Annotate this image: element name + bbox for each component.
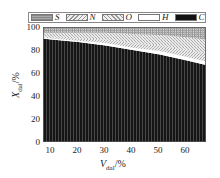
y-tick-80: 80 [20, 46, 40, 55]
legend-label-n: N [90, 13, 96, 22]
plot-area [43, 27, 206, 142]
x-tick-30: 30 [94, 146, 114, 155]
x-tick-50: 50 [148, 146, 168, 155]
x-tick-40: 40 [121, 146, 141, 155]
y-tick-20: 20 [20, 115, 40, 124]
legend-item-c: C [175, 13, 207, 22]
legend-item-n: N [66, 13, 98, 22]
legend-item-o: O [102, 13, 135, 22]
x-tick-10: 10 [40, 146, 60, 155]
legend-item-s: S [31, 13, 62, 22]
x-label-unit: /% [115, 158, 126, 169]
legend-swatch-o [102, 14, 124, 21]
chart-legend: S N O H C [28, 12, 206, 23]
y-label-var: X [10, 92, 21, 98]
y-tick-100: 100 [20, 23, 40, 32]
x-tick-60: 60 [175, 146, 195, 155]
stacked-area-chart [43, 27, 206, 142]
legend-swatch-n [66, 14, 88, 21]
x-tick-20: 20 [67, 146, 87, 155]
x-label-sub: dal [106, 164, 115, 172]
legend-label-c: C [199, 13, 205, 22]
x-axis-label: Vdal/% [100, 158, 126, 172]
y-label-unit: /% [10, 72, 21, 83]
y-tick-0: 0 [20, 138, 40, 147]
legend-swatch-c [175, 14, 197, 21]
y-axis-label: Xdal/% [10, 72, 24, 98]
y-label-sub: dal [16, 83, 24, 92]
legend-swatch-h [138, 14, 160, 21]
legend-item-h: H [138, 13, 171, 22]
legend-swatch-s [31, 14, 53, 21]
legend-label-h: H [162, 13, 169, 22]
legend-label-s: S [55, 13, 60, 22]
legend-label-o: O [126, 13, 133, 22]
